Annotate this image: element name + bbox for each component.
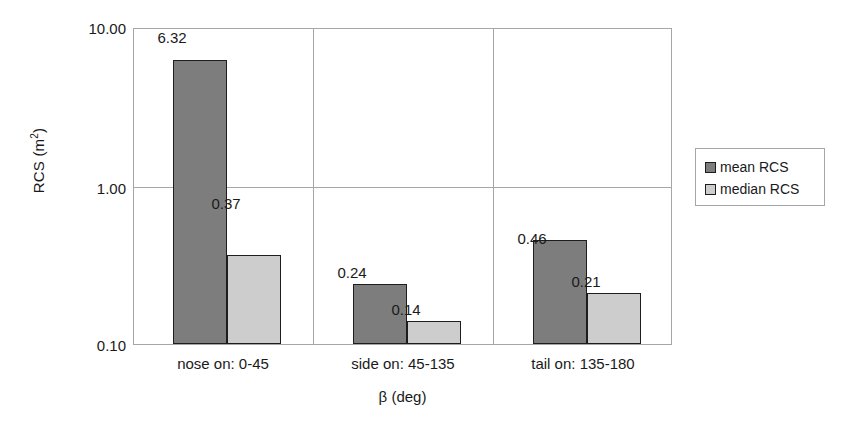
y-tick-label-0-1: 0.10 [64, 337, 126, 354]
y-axis-title-exponent: 2 [29, 133, 40, 139]
legend-swatch-icon-median-rcs [705, 184, 716, 195]
bar-median-tail-on [587, 293, 641, 344]
y-axis-title-base: RCS (m [30, 139, 47, 194]
category-separator-2 [493, 29, 494, 344]
legend-label-mean-rcs: mean RCS [720, 159, 788, 175]
bar-value-median-side-on: 0.14 [379, 301, 433, 318]
legend-swatch-icon-mean-rcs [705, 162, 716, 173]
plot-area [133, 28, 672, 345]
legend-item-median-rcs: median RCS [705, 178, 824, 200]
y-axis-title-close: ) [30, 128, 47, 133]
legend-item-mean-rcs: mean RCS [705, 156, 824, 178]
bar-value-median-nose-on: 0.37 [199, 195, 253, 212]
bar-median-nose-on [227, 255, 281, 344]
y-axis-title: RCS (m2) [30, 101, 47, 221]
bar-median-side-on [407, 321, 461, 344]
x-tick-label-tail-on: tail on: 135-180 [493, 355, 673, 372]
legend: mean RCS median RCS [695, 148, 825, 206]
bar-value-mean-nose-on: 6.32 [145, 29, 199, 46]
legend-label-median-rcs: median RCS [720, 181, 799, 197]
bar-value-mean-tail-on: 0.46 [505, 230, 559, 247]
y-tick-label-1: 1.00 [64, 180, 126, 197]
y-axis-tick-labels: 10.00 1.00 0.10 [60, 0, 126, 432]
x-axis-title: β (deg) [133, 388, 672, 405]
bar-value-mean-side-on: 0.24 [325, 264, 379, 281]
x-tick-label-side-on: side on: 45-135 [313, 355, 493, 372]
category-separator-1 [313, 29, 314, 344]
y-tick-label-10: 10.00 [64, 20, 126, 37]
bar-mean-tail-on [533, 240, 587, 344]
rcs-bar-chart: RCS (m2) 10.00 1.00 0.10 6.32 0.37 0.24 … [0, 0, 859, 432]
x-tick-label-nose-on: nose on: 0-45 [133, 355, 313, 372]
bar-value-median-tail-on: 0.21 [559, 273, 613, 290]
